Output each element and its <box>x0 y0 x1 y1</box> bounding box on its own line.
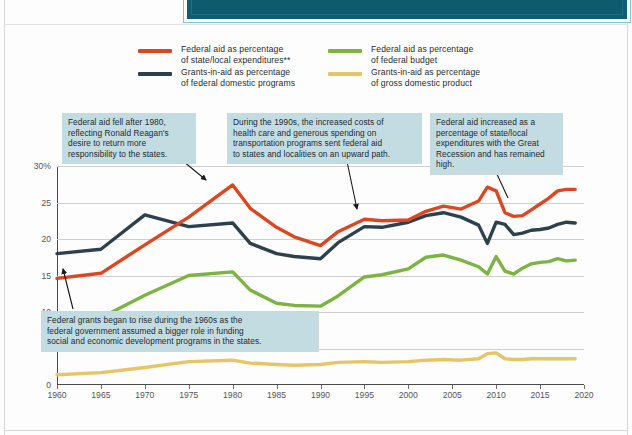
y-tick-label-20: 20 <box>41 234 51 244</box>
annotation-reagan: Federal aid fell after 1980, reflecting … <box>62 113 196 164</box>
page-border-top <box>4 24 628 25</box>
x-tick-label-1965: 1965 <box>91 390 110 400</box>
x-tick-mark-2015 <box>540 385 541 389</box>
x-tick-mark-1980 <box>233 385 234 389</box>
chart-legend: Federal aid as percentage of state/local… <box>138 44 608 90</box>
legend-label-grants-gdp: Grants-in-aid as percentage of gross dom… <box>371 67 480 88</box>
legend-label-grants-federal-domestic: Grants-in-aid as percentage of federal d… <box>181 67 295 88</box>
page-border-left <box>4 0 5 435</box>
series-line-0 <box>57 185 575 278</box>
annotation-recession: Federal aid increased as a percentage of… <box>430 113 563 175</box>
legend-label-federal-aid-federal-budget: Federal aid as percentage of federal bud… <box>371 44 473 65</box>
legend-swatch-icon-red <box>138 49 172 53</box>
x-tick-mark-1985 <box>277 385 278 389</box>
series-lines-group <box>57 166 584 385</box>
x-tick-mark-1960 <box>57 385 58 389</box>
legend-item-grants-federal-domestic: Grants-in-aid as percentage of federal d… <box>138 67 324 90</box>
x-tick-label-1970: 1970 <box>135 390 154 400</box>
page-border-right <box>627 0 628 435</box>
x-tick-mark-2010 <box>496 385 497 389</box>
y-tick-label-0: 0 <box>46 380 51 390</box>
legend-swatch-icon-green <box>328 49 362 53</box>
y-tick-label-25: 25 <box>41 198 51 208</box>
x-tick-mark-1990 <box>321 385 322 389</box>
y-tick-label-30: 30% <box>34 161 51 171</box>
x-tick-label-2005: 2005 <box>443 390 462 400</box>
x-tick-mark-1995 <box>364 385 365 389</box>
annotation-sixties: Federal grants began to rise during the … <box>41 311 319 352</box>
series-line-3 <box>57 353 575 375</box>
chart-plot-area: 051015202530% 19601965197019751980198519… <box>57 166 584 385</box>
x-tick-label-1980: 1980 <box>223 390 242 400</box>
x-tick-mark-1970 <box>145 385 146 389</box>
y-tick-label-15: 15 <box>41 271 51 281</box>
legend-item-grants-gdp: Grants-in-aid as percentage of gross dom… <box>328 67 514 90</box>
x-tick-mark-2005 <box>452 385 453 389</box>
x-tick-mark-1965 <box>101 385 102 389</box>
x-tick-mark-1975 <box>189 385 190 389</box>
x-tick-label-2015: 2015 <box>531 390 550 400</box>
figure-header-text: Figure • Federal aid to state and local … <box>191 0 623 15</box>
chart-page: Figure • Federal aid to state and local … <box>0 0 632 435</box>
legend-swatch-icon-navy <box>138 72 172 76</box>
x-tick-label-2020: 2020 <box>574 390 593 400</box>
x-tick-label-1975: 1975 <box>179 390 198 400</box>
legend-item-federal-aid-state-local: Federal aid as percentage of state/local… <box>138 44 324 67</box>
annotation-nineties: During the 1990s, the increased costs of… <box>227 113 422 164</box>
x-tick-label-2000: 2000 <box>399 390 418 400</box>
legend-label-federal-aid-state-local: Federal aid as percentage of state/local… <box>181 44 290 65</box>
x-tick-label-1990: 1990 <box>311 390 330 400</box>
x-tick-label-1960: 1960 <box>47 390 66 400</box>
x-tick-label-1995: 1995 <box>355 390 374 400</box>
legend-item-federal-aid-federal-budget: Federal aid as percentage of federal bud… <box>328 44 514 67</box>
page-border-bottom <box>4 430 628 431</box>
legend-swatch-icon-tan <box>328 72 362 76</box>
x-tick-mark-2020 <box>584 385 585 389</box>
figure-header-banner: Figure • Federal aid to state and local … <box>184 0 630 22</box>
x-tick-mark-2000 <box>408 385 409 389</box>
x-tick-label-1985: 1985 <box>267 390 286 400</box>
x-tick-label-2010: 2010 <box>487 390 506 400</box>
